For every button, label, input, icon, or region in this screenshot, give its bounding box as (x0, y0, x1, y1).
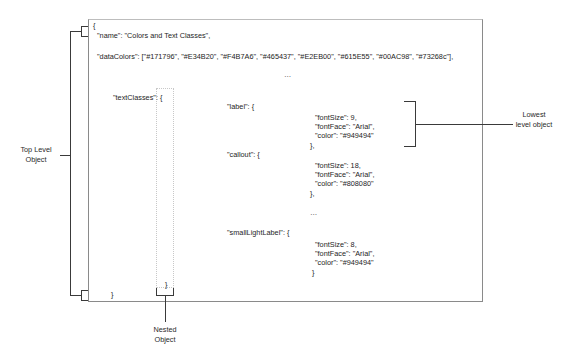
top-level-object-label: Top Level Object (14, 145, 58, 164)
label-class-key: "label": { (227, 102, 254, 112)
small-light-label-class-key: "smallLightLabel": { (227, 228, 289, 238)
small-light-label-color: "color": "#949494" (315, 258, 374, 268)
label-color: "color": "#949494" (315, 131, 374, 141)
data-colors-property: "dataColors": ["#171796", "#E34B20", "#F… (97, 52, 453, 62)
outer-close-brace: } (111, 290, 113, 300)
text-classes-property: "textClasses": { (113, 93, 162, 103)
open-brace: { (93, 21, 95, 31)
nested-close-brace: } (165, 280, 167, 290)
ellipsis-middle: … (310, 208, 317, 218)
lowest-level-object-label: Lowest level object (514, 110, 554, 129)
small-light-label-close: } (312, 268, 314, 278)
nested-object-label: Nested Object (145, 325, 185, 344)
nested-object-highlight (156, 88, 174, 288)
callout-color: "color": "#808080" (315, 179, 374, 189)
label-close: }, (310, 141, 314, 151)
ellipsis-top: … (284, 70, 291, 80)
callout-class-key: "callout": { (227, 150, 260, 160)
callout-close: }, (310, 189, 314, 199)
name-property: "name": "Colors and Text Classes", (97, 31, 210, 41)
